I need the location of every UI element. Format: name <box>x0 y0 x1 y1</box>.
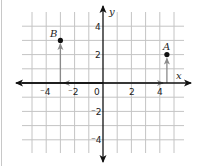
x-tick-label: ⁻2 <box>68 87 78 97</box>
origin-label: 0 <box>94 87 100 97</box>
y-tick-label: ⁻2 <box>91 107 101 117</box>
path-to-a <box>103 59 167 84</box>
coordinate-plane: y x ⁻4 ⁻2 0 2 4 4 2 ⁻2 ⁻4 B A <box>0 0 198 166</box>
y-axis-label: y <box>108 6 115 17</box>
x-tick-label: 2 <box>129 87 135 97</box>
x-tick-label: 4 <box>157 87 163 97</box>
point-b-label: B <box>49 28 57 39</box>
figure-frame: y x ⁻4 ⁻2 0 2 4 4 2 ⁻2 ⁻4 B A <box>0 0 198 166</box>
y-tick-label: ⁻4 <box>91 135 102 145</box>
y-tick-label: 2 <box>95 50 101 60</box>
point-a-label: A <box>162 41 170 52</box>
x-tick-label: ⁻4 <box>40 87 51 97</box>
y-tick-label: 4 <box>95 22 101 32</box>
x-axis-label: x <box>176 70 182 81</box>
